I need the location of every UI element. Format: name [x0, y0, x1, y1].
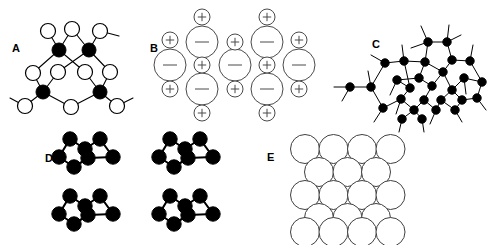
anion	[283, 49, 315, 81]
figure-canvas: ABCDE	[0, 0, 489, 247]
panel-b-ionic-lattice: B	[150, 9, 315, 121]
atom-filled	[439, 68, 447, 76]
anion	[186, 73, 218, 105]
atom-filled	[93, 132, 107, 146]
anion	[219, 49, 251, 81]
panel-label-E: E	[267, 151, 274, 163]
atom-filled	[420, 96, 428, 104]
atom-filled	[106, 207, 120, 221]
atom-filled	[36, 85, 50, 99]
anion	[154, 49, 186, 81]
panel-d-molecular-clusters: D	[45, 132, 220, 231]
atom-filled	[82, 43, 96, 57]
atom-filled	[379, 104, 387, 112]
atom-filled	[437, 96, 445, 104]
sphere-row-2	[305, 158, 391, 187]
cation	[227, 81, 243, 97]
cluster-atoms	[152, 132, 220, 174]
atom-filled	[93, 85, 107, 99]
atom-filled	[206, 150, 220, 164]
cation	[194, 57, 210, 73]
sphere	[291, 218, 320, 247]
atom-filled	[152, 150, 166, 164]
sphere	[376, 218, 405, 247]
cation	[259, 105, 275, 121]
anion	[251, 26, 283, 58]
panel-c-atoms	[346, 38, 486, 123]
atom-filled	[167, 160, 181, 174]
panel-label-B: B	[150, 42, 158, 54]
atom-filled	[448, 56, 456, 64]
atom-open	[65, 22, 80, 37]
atom-open	[78, 65, 93, 80]
atom-filled	[473, 94, 481, 102]
atom-filled	[152, 207, 166, 221]
cation	[291, 81, 307, 97]
atom-filled	[52, 150, 66, 164]
atom-filled	[410, 106, 418, 114]
atom-open	[64, 100, 79, 115]
cluster-atoms	[152, 189, 220, 231]
cation	[194, 105, 210, 121]
atom-filled	[206, 207, 220, 221]
molecular-cluster-3	[52, 189, 120, 231]
atom-filled	[181, 208, 195, 222]
sphere	[319, 218, 348, 247]
atom-filled	[367, 83, 375, 91]
cation	[259, 9, 275, 25]
atom-filled	[400, 57, 408, 65]
atom-open	[51, 65, 66, 80]
panel-e-close-packed-spheres: E	[267, 135, 405, 247]
atom-open	[26, 66, 41, 81]
atom-filled	[67, 217, 81, 231]
atom-filled	[93, 189, 107, 203]
atom-filled	[460, 74, 468, 82]
atom-filled	[193, 189, 207, 203]
atom-filled	[424, 38, 432, 46]
panel-a-atoms	[18, 22, 125, 115]
atom-open	[41, 24, 56, 39]
atom-filled	[443, 38, 451, 46]
atom-filled	[398, 115, 406, 123]
atom-filled	[81, 208, 95, 222]
cluster-atoms	[52, 189, 120, 231]
molecular-cluster-4	[152, 189, 220, 231]
panel-b-ions	[154, 9, 315, 121]
panel-c-amorphous-network: C	[334, 25, 486, 132]
atom-filled	[418, 115, 426, 123]
atom-filled	[106, 150, 120, 164]
cation	[162, 81, 178, 97]
molecular-cluster-2	[152, 132, 220, 174]
atom-open	[103, 65, 118, 80]
atom-filled	[163, 132, 177, 146]
atom-filled	[478, 78, 486, 86]
panel-label-A: A	[12, 42, 20, 54]
atom-filled	[181, 151, 195, 165]
anion	[251, 73, 283, 105]
cluster-atoms	[52, 132, 120, 174]
atom-filled	[167, 217, 181, 231]
atom-filled	[52, 207, 66, 221]
molecular-cluster-1	[52, 132, 120, 174]
atom-filled	[63, 132, 77, 146]
atom-open	[18, 99, 33, 114]
atom-filled	[448, 86, 456, 94]
panel-e-rows	[291, 135, 406, 247]
atom-filled	[428, 82, 436, 90]
structure-types-figure: ABCDE	[0, 0, 489, 247]
atom-filled	[193, 132, 207, 146]
sphere	[348, 218, 377, 247]
atom-filled	[346, 83, 354, 91]
atom-filled	[458, 96, 466, 104]
atom-filled	[415, 74, 423, 82]
cation	[227, 34, 243, 50]
atom-filled	[81, 151, 95, 165]
atom-filled	[432, 106, 440, 114]
panel-a-covalent-network: A	[10, 22, 133, 115]
atom-filled	[451, 106, 459, 114]
atom-filled	[421, 58, 429, 66]
cation	[194, 9, 210, 25]
anion	[186, 26, 218, 58]
atom-open	[110, 99, 125, 114]
cation	[259, 57, 275, 73]
